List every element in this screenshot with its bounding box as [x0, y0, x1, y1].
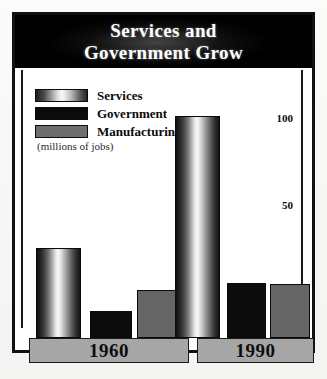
chart-title-line-2: Government Grow — [84, 42, 243, 64]
plot-panel: Services Government Manufacturing (milli… — [15, 68, 312, 350]
axis-tick-100: 100 — [263, 112, 293, 124]
bar-1990-manufacturing — [270, 284, 310, 338]
legend-item-government: Government — [35, 106, 182, 121]
group-label-1990-text: 1990 — [236, 340, 276, 362]
group-label-1960: 1960 — [29, 338, 189, 363]
bar-1990-government — [227, 283, 266, 338]
group-label-1990: 1990 — [197, 338, 314, 363]
legend: Services Government Manufacturing — [35, 88, 182, 142]
group-label-1960-text: 1960 — [89, 340, 129, 362]
chart-title-line-1: Services and — [110, 20, 217, 42]
title-banner: Services and Government Grow — [15, 15, 312, 68]
legend-item-manufacturing: Manufacturing — [35, 124, 182, 139]
legend-item-services: Services — [35, 88, 182, 103]
legend-label-manufacturing: Manufacturing — [97, 125, 182, 138]
legend-swatch-manufacturing-icon — [35, 125, 88, 138]
axis-units-note: (millions of jobs) — [37, 140, 113, 152]
bar-1990-services — [175, 116, 220, 338]
legend-swatch-services-icon — [35, 89, 88, 102]
legend-label-services: Services — [97, 89, 142, 102]
axis-tick-50: 50 — [263, 199, 293, 211]
chart-title: Services and Government Grow — [15, 15, 312, 68]
legend-swatch-government-icon — [35, 107, 88, 120]
bar-1960-government — [90, 311, 132, 338]
panel-left-rule — [21, 70, 23, 328]
bar-1960-services — [36, 248, 81, 338]
legend-label-government: Government — [97, 107, 167, 120]
chart-frame: Services and Government Grow Services Go… — [12, 12, 315, 353]
figure-page: Services and Government Grow Services Go… — [0, 0, 327, 379]
